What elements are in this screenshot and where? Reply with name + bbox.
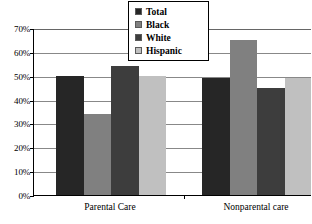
- y-axis: 0%10%20%30%40%50%60%70%: [0, 0, 30, 224]
- bar-total-0: [56, 76, 84, 195]
- bar-white-0: [111, 66, 139, 195]
- x-tick-label: Parental Care: [55, 202, 165, 213]
- bar-total-1: [202, 78, 230, 195]
- y-tick-label: 0%: [0, 192, 30, 201]
- y-tick-label: 10%: [0, 168, 30, 177]
- y-tick-label: 50%: [0, 72, 30, 81]
- bar-black-0: [84, 114, 112, 195]
- legend-item[interactable]: Total: [135, 5, 204, 18]
- legend-item-label: Hispanic: [146, 46, 182, 56]
- legend-item-label: White: [146, 33, 171, 43]
- y-tick-label: 20%: [0, 144, 30, 153]
- y-tick-label: 40%: [0, 96, 30, 105]
- bar-chart: 0%10%20%30%40%50%60%70% Parental CareNon…: [0, 0, 311, 224]
- legend-item[interactable]: Black: [135, 18, 204, 31]
- legend-swatch-icon: [135, 34, 142, 41]
- y-tick-label: 70%: [0, 25, 30, 34]
- x-tick-label: Nonparental care: [201, 202, 311, 213]
- legend-item-label: Black: [146, 20, 169, 30]
- legend-item[interactable]: Hispanic: [135, 44, 204, 57]
- bar-hispanic-1: [285, 78, 312, 195]
- bar-hispanic-0: [139, 76, 167, 195]
- chart-legend: TotalBlackWhiteHispanic: [128, 1, 209, 61]
- bar-white-1: [257, 88, 285, 195]
- bar-black-1: [230, 40, 258, 195]
- y-tick-mark: [30, 196, 34, 197]
- legend-swatch-icon: [135, 47, 142, 54]
- legend-swatch-icon: [135, 21, 142, 28]
- y-tick-label: 60%: [0, 48, 30, 57]
- legend-swatch-icon: [135, 8, 142, 15]
- legend-item-label: Total: [146, 7, 167, 17]
- x-tick-mark: [184, 195, 185, 199]
- legend-item[interactable]: White: [135, 31, 204, 44]
- y-tick-label: 30%: [0, 120, 30, 129]
